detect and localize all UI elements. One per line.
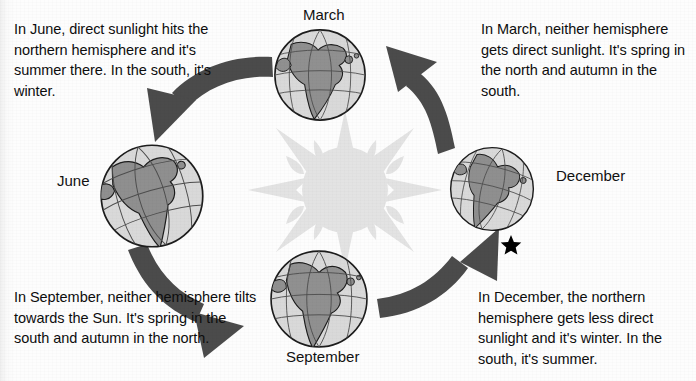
globe-icon — [98, 142, 206, 250]
seasons-diagram: March June December September In June, d… — [0, 0, 696, 381]
caption-december: In December, the northern hemisphere get… — [478, 287, 684, 369]
globe-icon — [268, 248, 370, 350]
caption-june: In June, direct sunlight hits the northe… — [14, 19, 230, 101]
month-label-june: June — [57, 172, 90, 190]
globe-icon — [448, 145, 536, 233]
star-icon — [500, 234, 522, 256]
caption-march: In March, neither hemisphere gets direct… — [481, 19, 687, 101]
caption-september: In September, neither hemisphere tilts t… — [14, 287, 262, 349]
arrow-december-to-march — [386, 46, 455, 154]
month-label-september: September — [286, 348, 359, 366]
month-label-march: March — [303, 6, 345, 24]
month-label-december: December — [556, 167, 625, 185]
globe-icon — [272, 27, 368, 123]
